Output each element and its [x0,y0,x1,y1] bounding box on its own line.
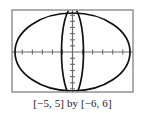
window-range-caption: [−5, 5] by [−6, 6] [0,96,145,110]
plot-svg [11,9,134,93]
plot-area [11,9,134,93]
graphing-calculator-figure: [−5, 5] by [−6, 6] [0,0,145,118]
